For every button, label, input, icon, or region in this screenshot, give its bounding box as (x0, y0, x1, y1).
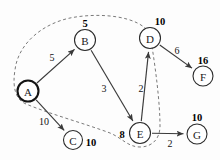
node-label-a: A (24, 86, 32, 98)
node-b[interactable]: B (75, 30, 96, 51)
distance-label-d: 10 (155, 16, 166, 27)
graph-svg: 5103262 ABCDEFG 5101610810 (0, 0, 220, 160)
edge-weight-e-g: 2 (168, 138, 173, 149)
distance-label-c: 10 (86, 137, 97, 148)
node-layer: ABCDEFG (18, 28, 214, 150)
edge-weight-b-e: 3 (102, 83, 107, 94)
node-c[interactable]: C (64, 131, 83, 150)
distance-label-f: 16 (198, 55, 209, 66)
edge-b-e (91, 50, 133, 121)
distance-label-b: 5 (82, 18, 87, 29)
node-label-e: E (137, 128, 144, 140)
graph-diagram-canvas: 5103262 ABCDEFG 5101610810 (0, 0, 220, 160)
edge-weight-a-b: 5 (50, 52, 55, 63)
edge-weight-a-c: 10 (39, 116, 49, 127)
node-a[interactable]: A (18, 81, 39, 102)
node-label-g: G (193, 129, 201, 141)
edge-weight-e-d: 2 (139, 83, 144, 94)
node-label-c: C (69, 135, 76, 147)
edge-layer: 5103262 (36, 45, 192, 149)
node-g[interactable]: G (187, 124, 207, 144)
edge-weight-d-f: 6 (175, 45, 180, 56)
distance-label-g: 10 (192, 112, 203, 123)
node-e[interactable]: E (130, 123, 151, 144)
edge-e-g (152, 133, 184, 134)
node-label-d: D (146, 33, 154, 45)
edge-a-b (37, 49, 75, 83)
node-label-b: B (81, 35, 88, 47)
node-d[interactable]: D (140, 28, 161, 49)
node-label-f: F (200, 71, 206, 83)
distance-label-e: 8 (119, 129, 124, 140)
node-f[interactable]: F (193, 66, 213, 86)
